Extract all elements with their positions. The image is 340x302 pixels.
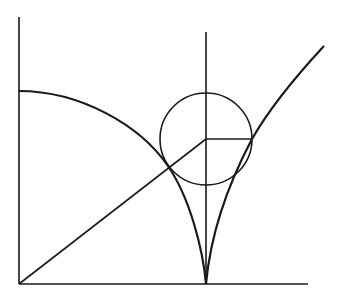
diagonal-line: [19, 139, 206, 284]
left-curve: [19, 91, 206, 284]
geometry-diagram: [0, 0, 340, 302]
right-curve: [206, 46, 324, 284]
